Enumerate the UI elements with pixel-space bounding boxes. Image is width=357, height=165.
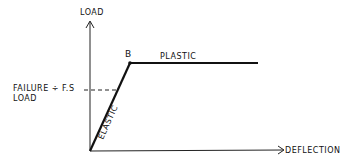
elastic-label: ELASTIC <box>97 104 120 141</box>
point-b-marker <box>128 61 132 65</box>
point-b-label: B <box>125 50 132 59</box>
x-axis-label: DEFLECTION <box>285 146 340 155</box>
load-deflection-diagram: ELASTIC <box>0 0 357 165</box>
plastic-label: PLASTIC <box>160 52 196 61</box>
divide-symbol: ÷ <box>52 84 59 93</box>
failure-text: FAILURE <box>13 84 49 93</box>
y-axis-label: LOAD <box>80 8 104 17</box>
failure-load-label: FAILURE ÷ F.S <box>13 84 74 93</box>
fos-text: F.S <box>62 84 74 93</box>
failure-load-label-line2: LOAD <box>13 94 37 103</box>
x-axis <box>90 150 283 151</box>
